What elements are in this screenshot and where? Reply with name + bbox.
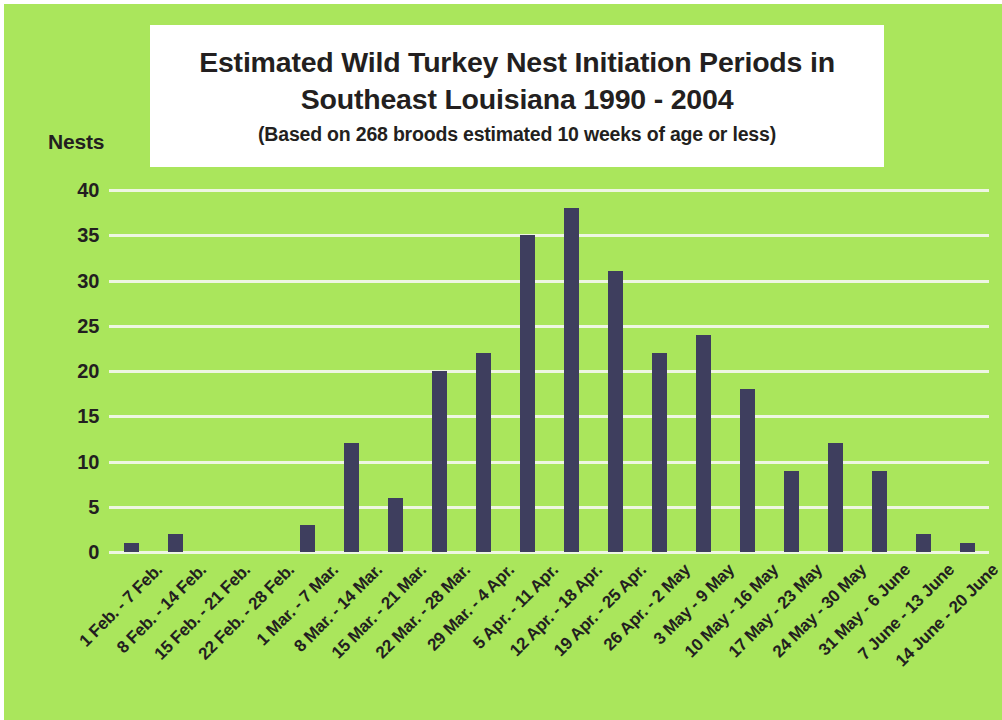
gridline (109, 415, 989, 418)
y-axis-tick-label: 15 (53, 405, 99, 428)
bar[interactable] (960, 543, 975, 552)
gridline (109, 461, 989, 464)
gridline (109, 551, 989, 554)
bar[interactable] (520, 235, 535, 552)
bar[interactable] (784, 471, 799, 552)
gridline (109, 189, 989, 192)
bar[interactable] (476, 353, 491, 552)
bar[interactable] (872, 471, 887, 552)
chart-container: Estimated Wild Turkey Nest Initiation Pe… (0, 0, 1002, 720)
bar[interactable] (740, 389, 755, 552)
x-axis-tick-labels: 1 Feb. - 7 Feb.8 Feb. - 14 Feb.15 Feb. -… (109, 556, 989, 720)
bar[interactable] (696, 335, 711, 552)
chart-title-line-2: Southeast Louisiana 1990 - 2004 (301, 81, 734, 117)
bar[interactable] (344, 443, 359, 552)
y-axis-tick-label: 20 (53, 360, 99, 383)
bar[interactable] (388, 498, 403, 552)
bar[interactable] (608, 271, 623, 552)
bar[interactable] (124, 543, 139, 552)
chart-title-box: Estimated Wild Turkey Nest Initiation Pe… (150, 25, 884, 167)
bar[interactable] (300, 525, 315, 552)
chart-subtitle: (Based on 268 broods estimated 10 weeks … (258, 123, 776, 146)
bar[interactable] (916, 534, 931, 552)
y-axis-tick-label: 35 (53, 224, 99, 247)
y-axis-tick-label: 0 (53, 541, 99, 564)
bar[interactable] (828, 443, 843, 552)
bar[interactable] (564, 208, 579, 552)
y-axis-tick-label: 25 (53, 314, 99, 337)
y-axis-tick-labels: 4035302520151050 (53, 190, 99, 552)
y-axis-title: Nests (48, 130, 104, 154)
plot-area (109, 190, 989, 552)
bar[interactable] (652, 353, 667, 552)
y-axis-tick-label: 5 (53, 495, 99, 518)
gridline (109, 234, 989, 237)
y-axis-tick-label: 40 (53, 179, 99, 202)
bar[interactable] (432, 371, 447, 552)
y-axis-tick-label: 30 (53, 269, 99, 292)
y-axis-tick-label: 10 (53, 450, 99, 473)
gridline (109, 325, 989, 328)
chart-title-line-1: Estimated Wild Turkey Nest Initiation Pe… (199, 44, 835, 80)
gridline (109, 370, 989, 373)
gridline (109, 506, 989, 509)
bar[interactable] (168, 534, 183, 552)
gridline (109, 280, 989, 283)
